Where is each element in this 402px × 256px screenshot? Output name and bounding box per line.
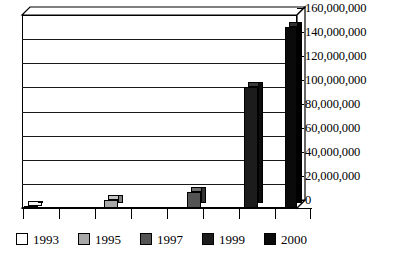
- y-tick-80m: [297, 104, 304, 105]
- y-axis-label-120m: 120,000,000: [305, 50, 366, 63]
- x-tick-4: [167, 208, 168, 219]
- y-tick-160m: [297, 8, 304, 9]
- y-axis-label-40m: 40,000,000: [305, 146, 360, 159]
- x-tick-0: [23, 208, 24, 219]
- y-axis-label-160m: 160,000,000: [305, 2, 366, 15]
- legend-swatch-1997: [140, 233, 152, 245]
- y-axis-label-80m: 80,000,000: [305, 98, 360, 111]
- legend-label-1997: 1997: [157, 233, 183, 246]
- bar-1993-side: [38, 201, 43, 203]
- legend-swatch-1993: [16, 233, 28, 245]
- y-axis-label-100m: 100,000,000: [305, 74, 366, 87]
- x-tick-2: [95, 208, 96, 219]
- bars-layer: [22, 15, 297, 208]
- y-tick-40m: [297, 152, 304, 153]
- legend-label-1995: 1995: [95, 233, 121, 246]
- y-axis-label-60m: 60,000,000: [305, 122, 360, 135]
- bar-1995-side: [118, 195, 123, 203]
- bar-2000[interactable]: [285, 27, 297, 208]
- legend-label-1993: 1993: [33, 233, 59, 246]
- bar-2000-front: [285, 27, 297, 208]
- y-tick-60m: [297, 128, 304, 129]
- x-tick-1: [59, 208, 60, 219]
- legend-swatch-1999: [202, 233, 214, 245]
- legend-item-2000[interactable]: 2000: [264, 233, 307, 246]
- bar-chart: 160,000,000 140,000,000 120,000,000 100,…: [0, 0, 402, 256]
- y-axis-label-140m: 140,000,000: [305, 26, 366, 39]
- x-tick-8: [310, 208, 311, 219]
- legend-swatch-2000: [264, 233, 276, 245]
- bar-1997-side: [201, 187, 206, 203]
- x-tick-6: [239, 208, 240, 219]
- y-tick-140m: [297, 32, 304, 33]
- legend-label-1999: 1999: [219, 233, 245, 246]
- x-axis: [22, 208, 312, 222]
- bar-1999-front: [244, 87, 258, 208]
- bar-1999-side: [258, 82, 263, 203]
- y-axis-label-20m: 20,000,000: [305, 170, 360, 183]
- bar-1997-front: [187, 192, 201, 208]
- legend-item-1993[interactable]: 1993: [16, 233, 59, 246]
- y-tick-20m: [297, 176, 304, 177]
- y-tick-120m: [297, 56, 304, 57]
- bar-1997[interactable]: [187, 192, 201, 208]
- x-tick-5: [203, 208, 204, 219]
- legend-item-1997[interactable]: 1997: [140, 233, 183, 246]
- bar-1999[interactable]: [244, 87, 258, 208]
- bar-1995[interactable]: [104, 200, 118, 208]
- y-axis: 160,000,000 140,000,000 120,000,000 100,…: [305, 0, 402, 215]
- x-tick-3: [131, 208, 132, 219]
- legend-swatch-1995: [78, 233, 90, 245]
- x-tick-7: [275, 208, 276, 219]
- legend-item-1999[interactable]: 1999: [202, 233, 245, 246]
- y-axis-label-0: 0: [305, 194, 311, 207]
- y-tick-100m: [297, 80, 304, 81]
- legend-item-1995[interactable]: 1995: [78, 233, 121, 246]
- legend-label-2000: 2000: [281, 233, 307, 246]
- chart-legend: 1993 1995 1997 1999 2000: [16, 229, 307, 249]
- bar-1995-front: [104, 200, 118, 208]
- y-tick-0: [297, 200, 304, 201]
